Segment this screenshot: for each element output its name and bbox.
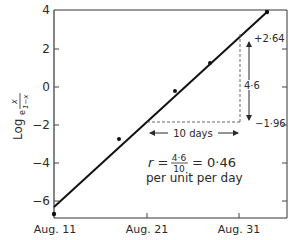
data-point [265, 10, 269, 14]
ytick-neg2: −2 [32, 118, 50, 132]
y-axis-title: Log e x 1−x [10, 93, 30, 140]
rate-formula: r = 4·6 10 = 0·46 per unit per day [146, 153, 243, 185]
svg-text:1−x: 1−x [22, 94, 30, 109]
ytick-neg6: −6 [32, 194, 50, 208]
svg-text:x: x [10, 99, 19, 105]
logistic-growth-chart: 4 2 0 −2 −4 −6 Log e x 1−x Aug. 11 Aug. … [0, 0, 297, 240]
data-point [117, 137, 121, 141]
xtick-aug21: Aug. 21 [126, 223, 168, 236]
xtick-aug31: Aug. 31 [218, 223, 260, 236]
lower-value-label: −1·96 [255, 118, 286, 129]
ytick-neg4: −4 [32, 156, 50, 170]
horizontal-span-label: 10 days [173, 128, 213, 139]
upper-value-label: +2·64 [254, 33, 285, 44]
data-point [208, 61, 212, 65]
svg-text:Log: Log [11, 119, 25, 140]
x-axis-labels: Aug. 11 Aug. 21 Aug. 31 [34, 223, 260, 236]
svg-text:4·6: 4·6 [172, 153, 187, 163]
y-axis-labels: 4 2 0 −2 −4 −6 [32, 3, 50, 208]
plot-frame [54, 10, 287, 218]
svg-text:per unit per day: per unit per day [146, 171, 243, 185]
svg-text:= 0·46: = 0·46 [192, 155, 236, 170]
x-axis-ticks [147, 213, 239, 218]
svg-text:e: e [18, 110, 27, 115]
xtick-aug11: Aug. 11 [34, 223, 76, 236]
data-point [173, 89, 177, 93]
ytick-4: 4 [42, 3, 50, 17]
ytick-2: 2 [42, 42, 50, 56]
vertical-span-label: 4·6 [244, 80, 260, 91]
svg-text:r =: r = [148, 155, 168, 170]
data-point [52, 212, 56, 216]
ytick-0: 0 [42, 80, 50, 94]
